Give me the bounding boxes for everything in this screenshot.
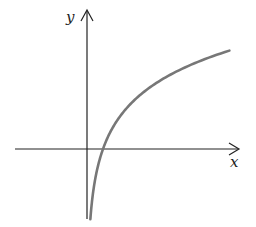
log-function-graph: x y	[0, 0, 256, 227]
x-axis-label: x	[230, 153, 239, 171]
log-curve	[90, 51, 229, 220]
y-axis-label: y	[65, 8, 75, 26]
